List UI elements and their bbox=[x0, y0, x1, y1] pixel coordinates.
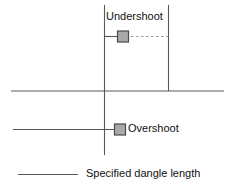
overshoot-label: Overshoot bbox=[128, 122, 179, 135]
dangle-length-diagram: Undershoot Overshoot Specified dangle le… bbox=[0, 0, 235, 191]
legend-label: Specified dangle length bbox=[86, 167, 200, 180]
diagram-canvas bbox=[0, 0, 235, 191]
undershoot-label: Undershoot bbox=[106, 10, 163, 23]
overshoot-marker-square bbox=[115, 124, 126, 135]
undershoot-marker-square bbox=[118, 31, 129, 42]
